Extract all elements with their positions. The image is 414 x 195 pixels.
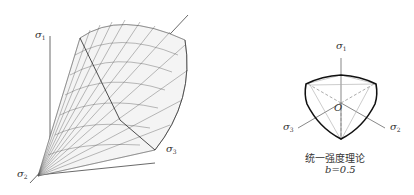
right-axes bbox=[298, 58, 385, 140]
right-sigma1-label: σ1 bbox=[336, 40, 347, 52]
right-sigma3-label: σ3 bbox=[283, 121, 294, 133]
left-sigma2-label: σ2 bbox=[17, 168, 28, 180]
caption-title: 统一强度理论 bbox=[305, 150, 365, 165]
right-sigma2-label: σ2 bbox=[390, 121, 401, 133]
caption-parameter: b=0.5 bbox=[325, 164, 356, 175]
origin-label: O bbox=[334, 102, 342, 113]
left-sigma1-label: σ1 bbox=[35, 29, 46, 41]
left-sigma3-label: σ3 bbox=[166, 143, 177, 155]
